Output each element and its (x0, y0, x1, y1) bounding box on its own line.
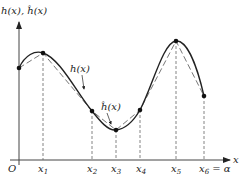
x-axis-label: x (233, 154, 239, 165)
guide-lines (43, 41, 204, 160)
h-curve-label: h(x) (70, 63, 90, 74)
svg-text:x1: x1 (38, 163, 48, 176)
svg-text:x5: x5 (171, 163, 182, 176)
function-approximation-diagram: h(x), ĥ(x) x O h(x) ĥ(x) x1 x2 x3 x4 x5 … (0, 0, 241, 184)
svg-text:x4: x4 (136, 163, 146, 176)
x-tick-labels: x1 x2 x3 x4 x5 x6 = α (38, 163, 231, 176)
svg-text:x6 = α: x6 = α (199, 163, 231, 176)
approx-curve-label: ĥ(x) (101, 101, 121, 112)
y-axis-label: h(x), ĥ(x) (1, 5, 47, 16)
sample-points (17, 39, 207, 133)
svg-text:x3: x3 (111, 163, 122, 176)
svg-text:x2: x2 (87, 163, 98, 176)
origin-label: O (8, 163, 16, 174)
